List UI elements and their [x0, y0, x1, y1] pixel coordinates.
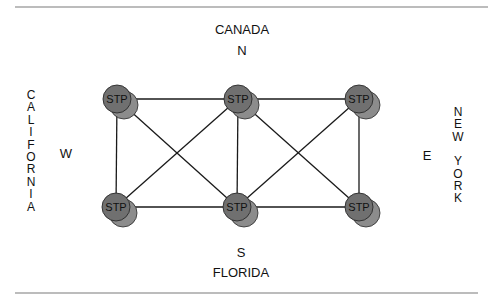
stp-node-tm: STP: [224, 85, 259, 119]
north-label: N: [237, 43, 246, 58]
east-label: E: [423, 148, 432, 163]
node-layer: STPSTPSTPSTPSTPSTP: [102, 85, 380, 227]
stp-node-bl: STP: [102, 193, 137, 227]
stp-node-tl: STP: [103, 85, 138, 119]
node-label: STP: [106, 93, 127, 105]
stp-network-diagram: STPSTPSTPSTPSTPSTP CANADA N S FLORIDA W …: [0, 0, 488, 300]
stp-node-bm: STP: [223, 193, 258, 227]
west-region-label: CALIFORNIA: [26, 88, 35, 214]
node-label: STP: [348, 201, 369, 213]
west-label: W: [60, 146, 73, 161]
east-region-letter: W: [452, 130, 464, 144]
node-label: STP: [226, 201, 247, 213]
node-label: STP: [227, 93, 248, 105]
node-label: STP: [105, 201, 126, 213]
stp-node-tr: STP: [345, 85, 380, 119]
south-label: S: [237, 245, 246, 260]
east-region-label: NEWYORK: [452, 105, 464, 205]
stp-node-br: STP: [345, 193, 380, 227]
west-region-letter: A: [27, 200, 35, 214]
east-region-letter: K: [454, 191, 462, 205]
south-region-label: FLORIDA: [213, 265, 270, 280]
north-region-label: CANADA: [215, 22, 270, 37]
node-label: STP: [348, 93, 369, 105]
